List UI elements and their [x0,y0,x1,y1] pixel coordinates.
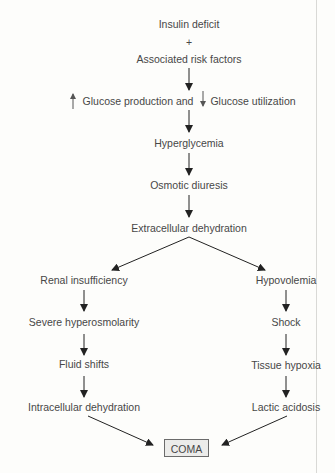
node-renal-insufficiency: Renal insufficiency [40,274,127,286]
node-shock: Shock [271,316,300,328]
node-intracellular-dehydration: Intracellular dehydration [28,401,140,413]
node-lactic-acidosis: Lactic acidosis [252,401,320,413]
node-osmotic-diuresis: Osmotic diuresis [150,179,228,191]
node-hypovolemia: Hypovolemia [256,274,317,286]
node-extracellular-dehydration: Extracellular dehydration [131,222,247,234]
node-risk-factors: Associated risk factors [136,53,241,65]
node-fluid-shifts: Fluid shifts [59,358,109,370]
node-severe-hyperosmolarity: Severe hyperosmolarity [29,316,139,328]
plus-sign: + [186,36,192,48]
node-glucose-utilization: Glucose utilization [210,95,295,107]
node-coma: COMA [164,439,209,457]
node-hyperglycemia: Hyperglycemia [154,137,223,149]
node-insulin-deficit: Insulin deficit [159,18,220,30]
node-tissue-hypoxia: Tissue hypoxia [251,359,321,371]
node-glucose-production: Glucose production and [83,95,194,107]
